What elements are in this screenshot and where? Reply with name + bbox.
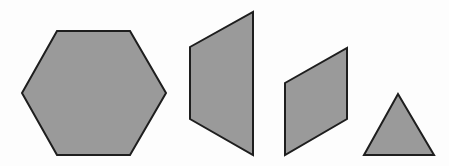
shapes-svg [0,0,449,166]
parallelogram-shape [285,48,347,155]
hexagon-shape [22,31,166,155]
shapes-figure [0,0,449,166]
trapezoid-shape [190,12,253,155]
triangle-shape [364,94,434,155]
